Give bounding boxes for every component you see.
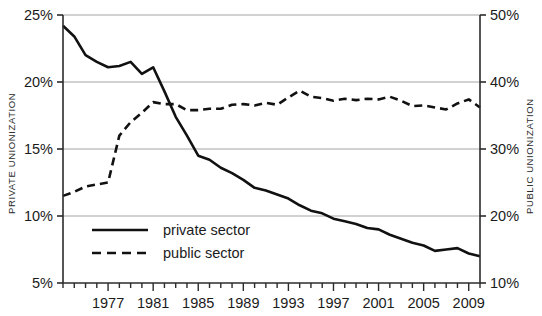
legend-label-public-sector: public sector <box>163 245 245 261</box>
y-tick-label-5: 5% <box>32 275 53 291</box>
x-tick-label-1993: 1993 <box>272 295 304 311</box>
y-axis-title: PRIVATE UNIONIZATION <box>6 93 17 214</box>
x-tick-label-1977: 1977 <box>92 295 124 311</box>
y-tick-label-20: 20% <box>24 74 53 90</box>
y2-tick-label-50: 50% <box>490 7 519 23</box>
x-tick-label-2009: 2009 <box>453 295 485 311</box>
x-tick-label-2005: 2005 <box>408 295 440 311</box>
y2-tick-label-30: 30% <box>490 141 519 157</box>
chart-canvas: 25%20%15%10%5%50%40%30%20%10%19771981198… <box>0 0 542 316</box>
x-tick-label-1985: 1985 <box>182 295 214 311</box>
y2-axis-title: PUBLIC UNIONIZATION <box>524 98 535 214</box>
y-tick-label-15: 15% <box>24 141 53 157</box>
chart-figure: 25%20%15%10%5%50%40%30%20%10%19771981198… <box>0 0 542 316</box>
y2-tick-label-10: 10% <box>490 275 519 291</box>
y-tick-label-25: 25% <box>24 7 53 23</box>
y2-tick-label-40: 40% <box>490 74 519 90</box>
y2-tick-label-20: 20% <box>490 208 519 224</box>
x-tick-label-1981: 1981 <box>137 295 169 311</box>
x-tick-label-1997: 1997 <box>317 295 349 311</box>
x-tick-label-2001: 2001 <box>362 295 394 311</box>
x-tick-label-1989: 1989 <box>227 295 259 311</box>
legend-label-private-sector: private sector <box>163 222 250 238</box>
y-tick-label-10: 10% <box>24 208 53 224</box>
